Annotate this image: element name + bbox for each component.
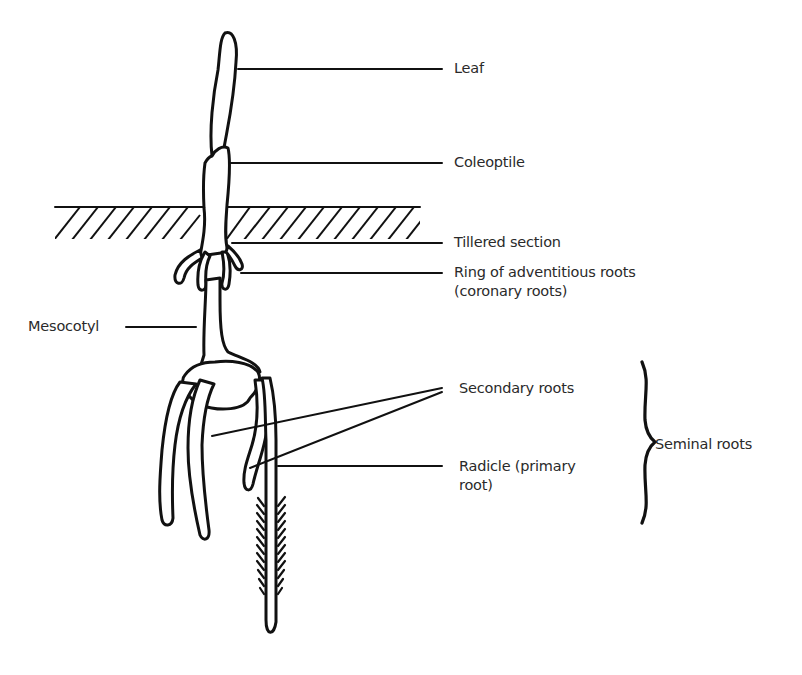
label-tillered-section: Tillered section	[454, 234, 561, 251]
label-coronary-roots: (coronary roots)	[454, 283, 567, 300]
label-radicle: Radicle (primary	[459, 458, 576, 475]
mesocotyl-shape	[200, 278, 260, 372]
label-mesocotyl: Mesocotyl	[28, 318, 99, 335]
label-leaf: Leaf	[454, 60, 484, 77]
label-secondary-roots: Secondary roots	[459, 380, 574, 397]
seminal-roots-brace	[642, 362, 655, 523]
label-primary-root: root)	[459, 477, 493, 494]
label-coleoptile: Coleoptile	[454, 154, 525, 171]
soil-surface-hatching	[50, 207, 432, 245]
label-adventitious-roots: Ring of adventitious roots	[454, 264, 636, 281]
seedling-illustration	[0, 0, 802, 675]
diagram-canvas: Leaf Coleoptile Tillered section Ring of…	[0, 0, 802, 675]
coleoptile-shape	[200, 147, 230, 256]
leaf-shape	[211, 33, 236, 156]
label-seminal-roots: Seminal roots	[655, 436, 752, 453]
